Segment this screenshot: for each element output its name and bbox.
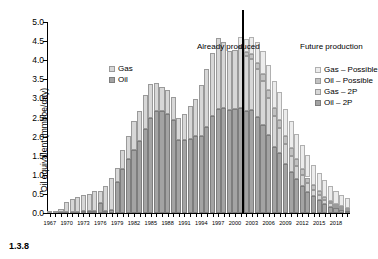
bar-segment xyxy=(277,153,282,213)
x-tick-mark xyxy=(314,214,315,217)
bar-segment xyxy=(333,204,338,206)
x-tick-mark xyxy=(297,214,298,217)
chart-plot-area: 0.00.51.01.52.02.53.03.54.04.55.0 196719… xyxy=(47,22,350,214)
legend-forecast-item[interactable]: Oil – 2P xyxy=(315,97,378,108)
bar-column xyxy=(47,212,52,213)
bar-column xyxy=(294,134,299,213)
x-tick-mark xyxy=(117,214,118,217)
bar-column xyxy=(249,37,254,213)
bar-segment xyxy=(283,164,288,213)
x-tick-mark xyxy=(263,214,264,217)
x-tick-mark xyxy=(342,214,343,217)
bar-segment xyxy=(221,42,226,109)
bar-segment xyxy=(339,208,344,210)
bar-segment xyxy=(165,90,170,114)
x-tick-label: 1982 xyxy=(128,220,140,226)
bar-segment xyxy=(289,172,294,213)
figure-number: 1.3.8 xyxy=(9,241,29,251)
x-tick-mark xyxy=(55,214,56,217)
bar-column xyxy=(289,121,294,213)
bar-column xyxy=(277,92,282,213)
x-tick-mark xyxy=(72,214,73,217)
bar-segment xyxy=(109,210,114,213)
bar-segment xyxy=(300,169,305,175)
bar-segment xyxy=(182,114,187,139)
x-tick-mark xyxy=(156,214,157,217)
legend-historical-item[interactable]: Gas xyxy=(109,63,133,74)
bar-segment xyxy=(120,169,125,213)
bar-segment xyxy=(115,182,120,213)
legend-forecast-item[interactable]: Oil – Possible xyxy=(315,75,378,86)
bar-segment xyxy=(159,111,164,213)
bar-column xyxy=(272,81,277,213)
bar-column xyxy=(210,53,215,213)
legend-item-label: Oil xyxy=(118,75,128,84)
bar-segment xyxy=(328,186,333,201)
legend-swatch-icon xyxy=(315,67,321,73)
bar-segment xyxy=(333,206,338,208)
bar-segment xyxy=(289,121,294,148)
bar-column xyxy=(204,69,209,213)
bar-segment xyxy=(227,110,232,213)
bar-segment xyxy=(244,111,249,213)
x-tick-mark xyxy=(319,214,320,217)
bar-segment xyxy=(339,210,344,213)
legend-forecast-item[interactable]: Gas – 2P xyxy=(315,86,378,97)
bar-segment xyxy=(294,159,299,166)
bar-segment xyxy=(154,111,159,213)
bar-column xyxy=(333,191,338,213)
x-tick-mark xyxy=(213,214,214,217)
bar-segment xyxy=(305,192,310,213)
bar-segment xyxy=(311,196,316,213)
bar-segment xyxy=(182,140,187,213)
x-tick-label: 2012 xyxy=(296,220,308,226)
x-tick-mark xyxy=(257,214,258,217)
bar-segment xyxy=(255,63,260,69)
bar-segment xyxy=(317,191,322,195)
bar-segment xyxy=(143,129,148,213)
bar-segment xyxy=(64,202,69,213)
x-tick-mark xyxy=(196,214,197,217)
x-tick-mark xyxy=(224,214,225,217)
bar-column xyxy=(81,195,86,213)
bar-segment xyxy=(283,144,288,164)
bar-segment xyxy=(317,195,322,200)
bar-column xyxy=(137,111,142,213)
bar-column xyxy=(92,191,97,213)
x-tick-mark xyxy=(285,214,286,217)
x-tick-mark xyxy=(145,214,146,217)
bar-segment xyxy=(277,128,282,153)
bar-segment xyxy=(311,185,316,190)
legend-forecast-item[interactable]: Gas – Possible xyxy=(315,64,378,75)
bar-segment xyxy=(244,52,249,56)
bar-segment xyxy=(188,106,193,138)
bar-column xyxy=(232,50,237,213)
x-tick-mark xyxy=(184,214,185,217)
bar-column xyxy=(176,118,181,213)
bar-segment xyxy=(58,209,63,212)
x-tick-label: 2015 xyxy=(313,220,325,226)
bar-column xyxy=(143,95,148,213)
bar-segment xyxy=(339,195,344,206)
bar-segment xyxy=(255,117,260,213)
bar-segment xyxy=(322,197,327,200)
bar-segment xyxy=(221,108,226,213)
bar-segment xyxy=(249,110,254,213)
y-tick-label: 1.5 xyxy=(0,152,44,161)
legend-historical-item[interactable]: Oil xyxy=(109,74,133,85)
bar-segment xyxy=(289,148,294,156)
bar-segment xyxy=(204,69,209,127)
x-tick-mark xyxy=(325,214,326,217)
x-tick-mark xyxy=(140,214,141,217)
bar-segment xyxy=(249,54,254,59)
x-tick-mark xyxy=(162,214,163,217)
x-tick-mark xyxy=(123,214,124,217)
bar-column xyxy=(199,85,204,213)
y-tick-label: 0.0 xyxy=(0,209,44,218)
bar-column xyxy=(322,180,327,213)
bar-segment xyxy=(98,203,103,213)
bar-column xyxy=(120,150,125,213)
x-tick-mark xyxy=(291,214,292,217)
bar-column xyxy=(103,186,108,213)
